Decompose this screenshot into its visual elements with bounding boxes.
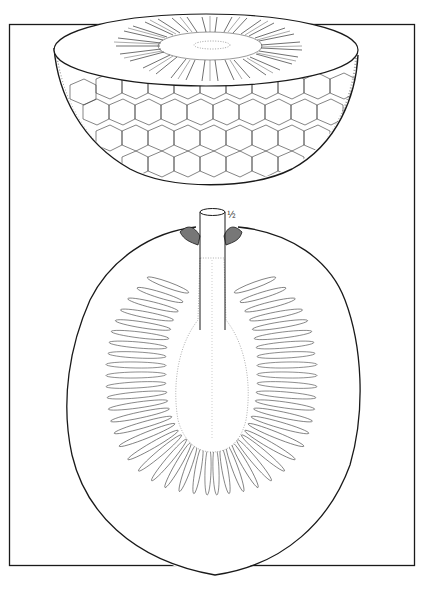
cut-face	[54, 14, 358, 86]
botanical-plate: ½	[0, 0, 424, 596]
illustration-svg	[0, 0, 424, 596]
scale-mark: ½	[227, 210, 236, 220]
half-fruit	[52, 14, 360, 186]
longitudinal-section	[67, 209, 362, 576]
